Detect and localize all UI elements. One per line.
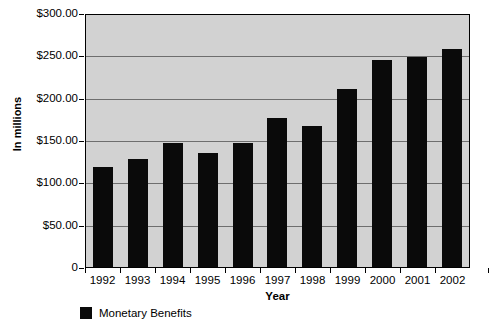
x-tick-mark <box>488 268 489 273</box>
bar-slot <box>399 15 434 267</box>
x-tick-mark <box>120 268 121 273</box>
y-tick-mark <box>79 268 84 269</box>
legend-label-monetary-benefits: Monetary Benefits <box>99 307 192 319</box>
legend: Monetary Benefits <box>80 307 192 319</box>
x-tick-label: 1999 <box>330 274 365 286</box>
bar-2001 <box>407 57 427 267</box>
y-tick-label: 0 <box>0 262 78 273</box>
bar-slot <box>190 15 225 267</box>
x-tick-mark <box>330 268 331 273</box>
bar-series <box>86 15 469 267</box>
x-tick-label: 1996 <box>225 274 260 286</box>
bar-1997 <box>267 118 287 267</box>
x-tick-slot <box>295 268 330 273</box>
y-tick-mark <box>79 99 84 100</box>
x-tick-mark <box>225 268 226 273</box>
x-tick-slot <box>365 268 400 273</box>
y-tick-label: $50.00 <box>0 220 78 231</box>
x-tick-label: 2002 <box>435 274 470 286</box>
y-tick-mark <box>79 183 84 184</box>
y-tick-label: $200.00 <box>0 93 78 104</box>
y-tick-mark <box>79 56 84 57</box>
x-tick-mark <box>400 268 401 273</box>
x-tick-slot <box>330 268 365 273</box>
bar-slot <box>330 15 365 267</box>
x-tick-slot <box>400 268 435 273</box>
y-tick-label: $100.00 <box>0 177 78 188</box>
x-tick-mark <box>435 268 436 273</box>
bar-1992 <box>93 167 113 267</box>
x-axis-ticks <box>85 268 470 273</box>
x-tick-label: 2001 <box>400 274 435 286</box>
bar-1998 <box>302 126 322 267</box>
bar-slot <box>365 15 400 267</box>
y-tick-mark <box>79 141 84 142</box>
y-axis-ticks: $300.00$250.00$200.00$150.00$100.00$50.0… <box>0 0 78 336</box>
y-tick-mark <box>79 226 84 227</box>
x-tick-mark <box>260 268 261 273</box>
x-tick-slot <box>85 268 120 273</box>
x-axis-labels: 1992199319941995199619971998199920002001… <box>85 274 470 286</box>
bar-1999 <box>337 89 357 267</box>
bar-1995 <box>198 153 218 267</box>
x-tick-label: 1993 <box>120 274 155 286</box>
x-tick-mark <box>365 268 366 273</box>
x-tick-label: 1997 <box>260 274 295 286</box>
bar-slot <box>295 15 330 267</box>
x-tick-label: 1992 <box>85 274 120 286</box>
bar-slot <box>86 15 121 267</box>
bar-2000 <box>372 60 392 267</box>
x-tick-slot <box>120 268 155 273</box>
x-tick-slot <box>260 268 295 273</box>
x-tick-label: 2000 <box>365 274 400 286</box>
x-tick-mark <box>85 268 86 273</box>
y-tick-mark <box>79 14 84 15</box>
y-tick-label: $150.00 <box>0 135 78 146</box>
plot-area <box>85 14 470 268</box>
x-tick-mark <box>295 268 296 273</box>
y-tick-label: $300.00 <box>0 8 78 19</box>
x-tick-mark <box>190 268 191 273</box>
x-tick-label: 1994 <box>155 274 190 286</box>
x-tick-slot <box>435 268 470 273</box>
bar-slot <box>225 15 260 267</box>
bar-1993 <box>128 159 148 267</box>
x-tick-slot <box>190 268 225 273</box>
bar-1994 <box>163 143 183 267</box>
x-tick-slot <box>225 268 260 273</box>
x-axis-title: Year <box>85 290 470 302</box>
bar-slot <box>434 15 469 267</box>
x-tick-slot <box>155 268 190 273</box>
bar-slot <box>260 15 295 267</box>
bar-chart: In millions $300.00$250.00$200.00$150.00… <box>0 0 493 336</box>
x-tick-label: 1995 <box>190 274 225 286</box>
x-tick-mark <box>155 268 156 273</box>
bar-1996 <box>233 143 253 267</box>
bar-slot <box>121 15 156 267</box>
y-tick-label: $250.00 <box>0 50 78 61</box>
bar-2002 <box>442 49 462 267</box>
legend-swatch-monetary-benefits <box>80 307 92 319</box>
x-tick-label: 1998 <box>295 274 330 286</box>
bar-slot <box>156 15 191 267</box>
